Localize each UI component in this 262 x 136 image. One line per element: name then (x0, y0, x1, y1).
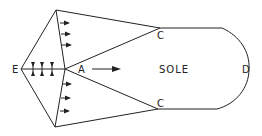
label-a: A (78, 64, 85, 75)
upper-flow-arrows (60, 21, 72, 48)
sole-diagram: E A C C SOLE D (0, 0, 262, 136)
kite-outline (21, 10, 65, 127)
label-c-bottom: C (157, 98, 164, 109)
label-d: D (242, 64, 250, 75)
direction-arrow (92, 66, 121, 72)
label-sole: SOLE (159, 64, 189, 75)
label-c-top: C (157, 30, 164, 41)
label-e: E (12, 64, 18, 75)
